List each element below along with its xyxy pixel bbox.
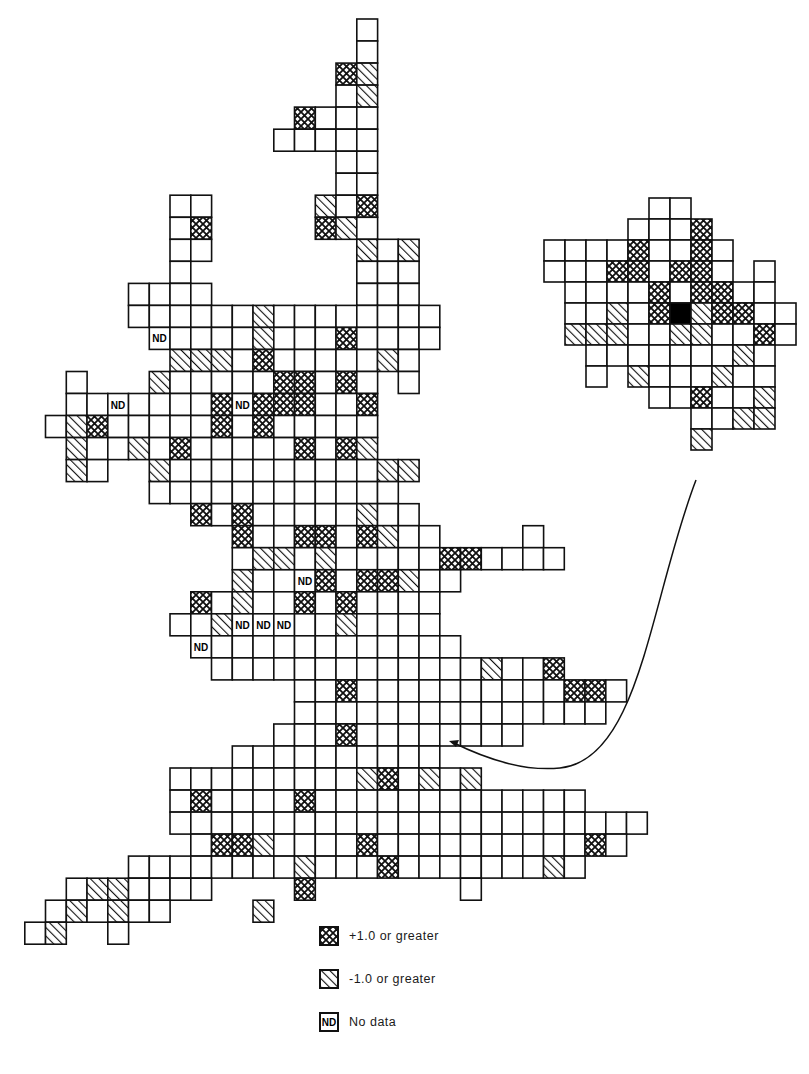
grid-cell-positive	[691, 261, 712, 282]
grid-cell-empty	[87, 460, 108, 482]
grid-cell-empty	[502, 702, 523, 724]
grid-cell-empty	[315, 107, 336, 129]
grid-cell-empty	[274, 350, 295, 372]
grid-cell-empty	[295, 305, 316, 327]
grid-cell-positive	[295, 526, 316, 548]
grid-cell-empty	[295, 658, 316, 680]
grid-cell-empty	[191, 283, 212, 305]
grid-cell-empty	[628, 282, 649, 303]
grid-cell-empty	[357, 372, 378, 394]
grid-cell-positive	[315, 526, 336, 548]
grid-cell-empty	[523, 834, 544, 856]
grid-cell-positive	[295, 107, 316, 129]
grid-cell-positive	[357, 834, 378, 856]
grid-cell-empty	[108, 416, 129, 438]
grid-cell-empty	[419, 614, 440, 636]
grid-cell-empty	[670, 387, 691, 408]
grid-cell-empty	[274, 636, 295, 658]
grid-cell-empty	[461, 680, 482, 702]
grid-cell-negative	[628, 366, 649, 387]
grid-cell-negative	[295, 856, 316, 878]
grid-cell-empty	[419, 790, 440, 812]
grid-cell-empty	[212, 438, 233, 460]
no-data-label: ND	[298, 576, 312, 587]
grid-cell-empty	[66, 878, 87, 900]
grid-cell-empty	[357, 680, 378, 702]
grid-cell-empty	[274, 724, 295, 746]
grid-cell-empty	[398, 504, 419, 526]
grid-cell-empty	[481, 834, 502, 856]
grid-cell-empty	[315, 856, 336, 878]
no-data-label: ND	[277, 620, 291, 631]
grid-cell-negative	[232, 592, 253, 614]
grid-cell-empty	[232, 636, 253, 658]
grid-cell-empty	[295, 350, 316, 372]
grid-cell-empty	[336, 305, 357, 327]
grid-cell-empty	[586, 261, 607, 282]
legend-item-positive: +1.0 or greater	[319, 925, 439, 947]
grid-cell-empty	[87, 438, 108, 460]
grid-cell-empty	[544, 702, 565, 724]
grid-cell-empty	[274, 768, 295, 790]
grid-cell-empty	[315, 327, 336, 349]
grid-cell-negative	[66, 438, 87, 460]
grid-cell-empty	[232, 856, 253, 878]
grid-cell-empty	[712, 324, 733, 345]
grid-cell-empty	[295, 614, 316, 636]
grid-cell-empty	[274, 570, 295, 592]
grid-cell-empty	[129, 856, 150, 878]
grid-cell-negative	[754, 408, 775, 429]
grid-cell-empty	[232, 372, 253, 394]
grid-cell-empty	[274, 416, 295, 438]
grid-cell-negative	[66, 416, 87, 438]
grid-cell-empty	[357, 856, 378, 878]
grid-cell-empty	[627, 812, 648, 834]
grid-cell-negative	[378, 526, 399, 548]
grid-cell-empty	[253, 636, 274, 658]
grid-cell-positive	[253, 350, 274, 372]
grid-cell-empty	[419, 856, 440, 878]
grid-cell-empty	[232, 460, 253, 482]
grid-cell-empty	[315, 746, 336, 768]
grid-cell-empty	[586, 282, 607, 303]
grid-cell-empty	[733, 387, 754, 408]
grid-cell-positive	[212, 416, 233, 438]
grid-cell-empty	[586, 345, 607, 366]
grid-cell-empty	[274, 834, 295, 856]
grid-cell-positive	[378, 856, 399, 878]
grid-cell-empty	[378, 834, 399, 856]
grid-cell-empty	[170, 217, 191, 239]
grid-cell-positive	[253, 416, 274, 438]
grid-cell-empty	[170, 261, 191, 283]
cross-hatch-swatch-icon	[319, 926, 339, 946]
grid-cell-empty	[274, 504, 295, 526]
grid-cell-empty	[691, 408, 712, 429]
grid-cell-empty	[649, 198, 670, 219]
grid-cell-empty	[606, 834, 627, 856]
grid-cell-empty	[191, 614, 212, 636]
grid-cell-empty	[46, 900, 67, 922]
grid-cell-empty	[398, 592, 419, 614]
grid-cell-positive	[232, 504, 253, 526]
grid-cell-negative	[691, 324, 712, 345]
grid-cell-positive	[691, 219, 712, 240]
grid-cell-empty	[336, 129, 357, 151]
grid-cell-positive	[378, 768, 399, 790]
grid-cell-empty	[649, 387, 670, 408]
grid-cell-empty	[398, 658, 419, 680]
grid-cell-empty	[523, 658, 544, 680]
grid-cell-empty	[670, 282, 691, 303]
grid-cell-empty	[295, 129, 316, 151]
grid-cell-empty	[295, 416, 316, 438]
grid-cell-empty	[419, 526, 440, 548]
grid-cell-empty	[253, 812, 274, 834]
grid-cell-empty	[274, 658, 295, 680]
grid-cell-empty	[378, 261, 399, 283]
grid-cell-empty	[191, 239, 212, 261]
grid-cell-empty	[274, 856, 295, 878]
grid-cell-empty	[712, 240, 733, 261]
grid-cell-positive	[357, 526, 378, 548]
grid-cell-empty	[295, 680, 316, 702]
grid-cell-empty	[212, 856, 233, 878]
grid-cell-negative	[607, 324, 628, 345]
